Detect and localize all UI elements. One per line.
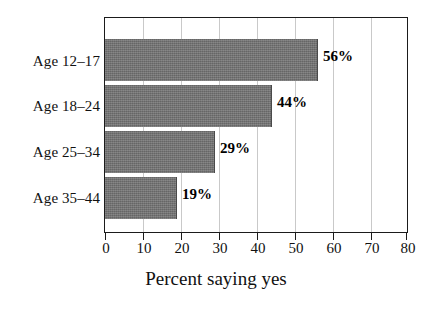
tick-mark-30 xyxy=(219,233,220,240)
tick-mark-80 xyxy=(406,233,407,240)
category-label-age-35-44: Age 35–44 xyxy=(0,191,100,206)
tick-mark-70 xyxy=(371,233,372,240)
tick-label-70: 70 xyxy=(352,240,392,256)
tick-label-80: 80 xyxy=(388,240,428,256)
value-label-age-35-44: 19% xyxy=(182,187,212,202)
tick-label-60: 60 xyxy=(314,240,354,256)
tick-label-20: 20 xyxy=(162,240,202,256)
gridline-70 xyxy=(371,18,372,232)
tick-mark-20 xyxy=(181,233,182,240)
tick-label-50: 50 xyxy=(276,240,316,256)
tick-mark-10 xyxy=(143,233,144,240)
plot-area xyxy=(104,17,408,233)
tick-mark-40 xyxy=(257,233,258,240)
x-axis-title: Percent saying yes xyxy=(0,268,432,290)
category-label-age-12-17: Age 12–17 xyxy=(0,54,100,69)
value-label-age-18-24: 44% xyxy=(277,95,307,110)
tick-label-0: 0 xyxy=(86,240,126,256)
tick-label-30: 30 xyxy=(200,240,240,256)
category-label-age-25-34: Age 25–34 xyxy=(0,145,100,160)
tick-mark-50 xyxy=(295,233,296,240)
bar-age-35-44 xyxy=(105,177,177,219)
tick-mark-60 xyxy=(333,233,334,240)
bar-age-12-17 xyxy=(105,39,318,81)
category-label-age-18-24: Age 18–24 xyxy=(0,99,100,114)
tick-mark-0 xyxy=(105,233,106,240)
bar-age-25-34 xyxy=(105,131,215,173)
bar-age-18-24 xyxy=(105,85,272,127)
tick-label-10: 10 xyxy=(124,240,164,256)
value-label-age-12-17: 56% xyxy=(323,49,353,64)
bar-chart-figure: Age 12–17 Age 18–24 Age 25–34 Age 35–44 … xyxy=(0,0,432,310)
value-label-age-25-34: 29% xyxy=(220,141,250,156)
tick-label-40: 40 xyxy=(238,240,278,256)
